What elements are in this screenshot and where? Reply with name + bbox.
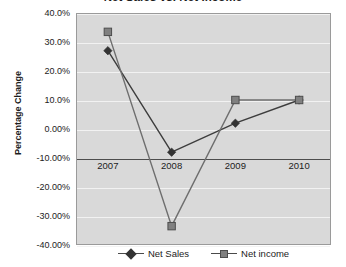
legend-item-net-sales[interactable]: Net Sales <box>118 248 189 259</box>
legend-item-net-income[interactable]: Net income <box>211 248 289 259</box>
diamond-marker-icon <box>118 248 144 259</box>
data-point-marker <box>232 96 239 103</box>
y-axis-tick-label: -20.00% <box>8 182 70 192</box>
data-point-marker <box>167 148 175 156</box>
y-axis-tick-label: 30.0% <box>8 37 70 47</box>
data-point-marker <box>295 96 302 103</box>
series-line-net-sales <box>108 51 299 153</box>
data-point-marker <box>104 47 112 55</box>
chart-legend: Net Sales Net income <box>76 248 331 259</box>
legend-label: Net Sales <box>147 248 189 259</box>
chart-figure: Net Sales vs. Net Income Percentage Chan… <box>0 0 346 267</box>
data-point-marker <box>168 222 175 229</box>
y-axis-tick-label: 40.0% <box>8 8 70 18</box>
y-axis-tick-label: -40.00% <box>8 240 70 250</box>
data-point-marker <box>104 28 111 35</box>
legend-label: Net income <box>240 248 289 259</box>
series-line-net-income <box>108 32 299 226</box>
chart-data-layer <box>76 13 331 245</box>
data-point-marker <box>231 119 239 127</box>
gridline <box>77 246 330 247</box>
square-marker-icon <box>211 248 237 259</box>
y-axis-tick-label: -30.00% <box>8 211 70 221</box>
y-axis-title: Percentage Change <box>13 58 23 168</box>
chart-title: Net Sales vs. Net Income <box>0 0 346 3</box>
